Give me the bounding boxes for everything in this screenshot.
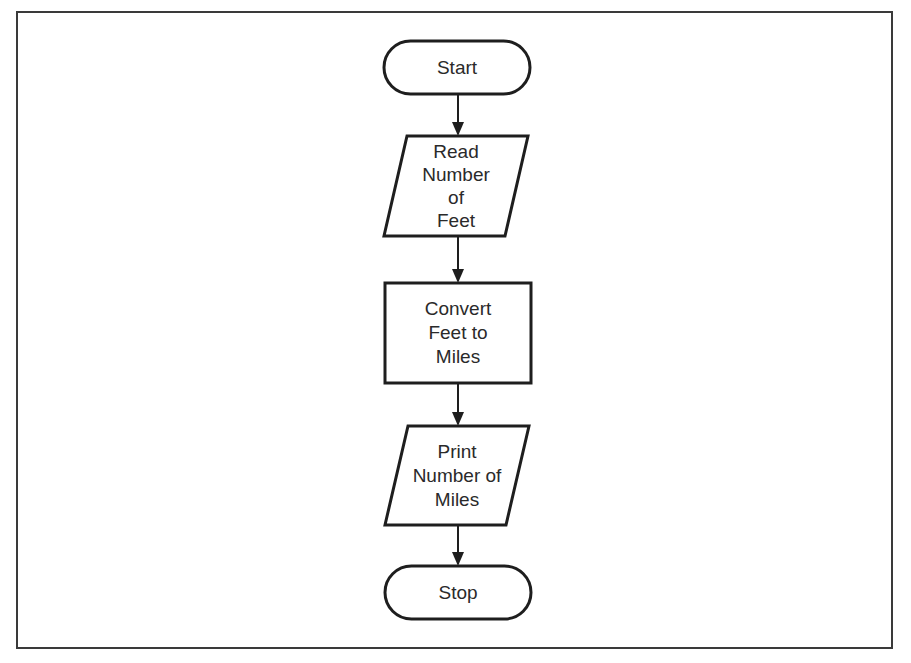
stop-label: Stop xyxy=(385,566,531,619)
arrowhead-icon xyxy=(452,412,464,426)
stop-text: Stop xyxy=(438,581,477,605)
read-text-line-4: Feet xyxy=(437,209,475,232)
print-text-line-2: Number of xyxy=(413,464,502,488)
convert-text-line-3: Miles xyxy=(436,345,480,369)
arrowhead-icon xyxy=(452,269,464,283)
convert-text-line-2: Feet to xyxy=(428,321,487,345)
read-text-line-1: Read xyxy=(433,140,478,163)
read-label: Read Number of Feet xyxy=(396,136,516,236)
print-text-line-3: Miles xyxy=(435,488,479,512)
arrowhead-icon xyxy=(452,122,464,136)
read-text-line-3: of xyxy=(448,186,464,209)
print-text-line-1: Print xyxy=(437,440,476,464)
start-label: Start xyxy=(384,41,530,94)
convert-text-line-1: Convert xyxy=(425,297,492,321)
arrowhead-icon xyxy=(452,552,464,566)
start-text: Start xyxy=(437,56,477,80)
print-label: Print Number of Miles xyxy=(397,426,517,525)
convert-label: Convert Feet to Miles xyxy=(385,283,531,383)
read-text-line-2: Number xyxy=(422,163,490,186)
